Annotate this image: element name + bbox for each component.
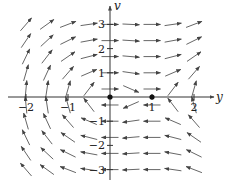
field-arrow <box>81 69 97 76</box>
field-arrow <box>24 113 29 129</box>
field-arrow <box>123 120 140 122</box>
field-arrow <box>186 37 201 45</box>
field-arrow <box>123 153 140 154</box>
field-arrow <box>186 21 202 27</box>
field-arrow <box>165 39 182 42</box>
field-arrow <box>41 35 53 47</box>
field-arrow <box>165 135 181 139</box>
y-tick-label: −2 <box>89 139 105 152</box>
field-arrow <box>188 115 199 128</box>
field-arrow <box>22 49 29 64</box>
field-arrow <box>186 167 202 173</box>
field-arrow <box>20 18 31 31</box>
field-arrow <box>46 97 49 114</box>
x-axis-label: y <box>215 90 223 104</box>
y-tick-label: 3 <box>98 18 105 31</box>
field-arrow <box>123 72 140 74</box>
field-arrow <box>24 65 29 81</box>
field-arrow <box>123 86 139 93</box>
y-tick-label: −1 <box>89 115 105 128</box>
field-arrow <box>187 133 201 143</box>
x-tick-label: −2 <box>18 101 34 114</box>
field-arrow <box>40 19 54 29</box>
field-arrow <box>22 130 29 145</box>
x-tick-label: 1 <box>149 101 156 114</box>
field-arrow <box>123 56 140 57</box>
equilibrium-point <box>149 94 154 99</box>
field-arrow <box>60 167 76 173</box>
field-arrow <box>165 168 182 170</box>
field-arrow <box>187 52 201 62</box>
field-arrow <box>123 40 140 41</box>
field-arrow <box>84 98 94 112</box>
field-arrow <box>188 66 199 79</box>
field-arrow <box>62 66 73 79</box>
field-arrow <box>61 133 75 143</box>
x-tick-label: 2 <box>191 101 198 114</box>
field-arrow <box>60 37 75 45</box>
field-arrow <box>165 118 181 125</box>
y-axis-label: v <box>114 0 121 13</box>
field-arrow <box>21 34 31 48</box>
field-arrow <box>43 65 50 80</box>
field-arrow <box>43 113 50 128</box>
field-arrow <box>21 146 31 160</box>
field-arrow <box>81 54 97 58</box>
y-tick-label: 1 <box>98 67 105 80</box>
field-arrow <box>168 98 178 112</box>
field-arrow <box>42 131 52 144</box>
field-arrow <box>41 148 53 160</box>
field-arrow <box>123 24 140 25</box>
y-tick-label: −3 <box>89 164 105 177</box>
field-arrow <box>123 169 140 170</box>
field-arrow <box>123 102 139 109</box>
field-arrow <box>165 69 181 76</box>
field-arrow <box>84 82 94 96</box>
x-tick-label: −1 <box>60 101 76 114</box>
field-arrow <box>42 50 52 63</box>
field-arrow <box>60 150 75 158</box>
field-arrow <box>123 137 140 138</box>
field-arrow <box>165 54 181 58</box>
field-arrow <box>186 150 201 158</box>
field-arrow <box>165 152 182 155</box>
field-arrow <box>165 23 182 25</box>
equilibrium-point <box>107 94 112 99</box>
field-arrow <box>20 163 31 176</box>
field-arrow <box>62 115 73 128</box>
field-arrow <box>168 82 178 96</box>
field-arrow <box>61 52 75 62</box>
y-tick-label: 2 <box>98 43 105 56</box>
field-arrow <box>40 165 54 175</box>
field-arrow <box>81 39 98 42</box>
field-arrow <box>81 23 98 25</box>
field-arrow <box>60 21 76 27</box>
field-arrow <box>46 81 49 98</box>
phase-plane-plot: −2−112321−1−2−3 y v <box>0 0 227 186</box>
